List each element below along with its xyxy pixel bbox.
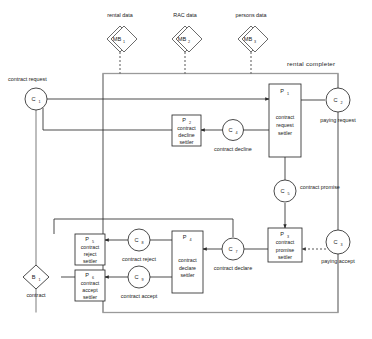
channel-c2[interactable] [326,88,350,112]
channel-c8-id: C [134,237,138,243]
diagram-canvas: rental completer MB 1 rental data MB 2 R… [0,0,372,339]
process-p1-line3: settler [278,130,292,136]
process-p4-line1: contract [178,257,197,263]
channel-c9-label: contract accept [121,293,158,299]
process-p1[interactable] [269,84,301,157]
bank-mb1-id: MB [113,36,122,42]
channel-c3-sub: 3 [340,243,342,247]
channel-c5[interactable] [274,180,296,202]
channel-c5-sub: 5 [287,192,289,196]
bank-mb3-id: MB [244,36,253,42]
channel-c3[interactable] [326,230,350,254]
process-p2-line2: decline [178,132,195,138]
process-p4-id: P [183,234,187,240]
channel-c7-sub: 7 [235,250,237,254]
channel-c7[interactable] [222,238,244,260]
process-p1-sub: 1 [287,92,289,96]
process-p5-id: P [85,236,89,242]
channel-c3-id: C [333,239,337,245]
bank-b1-id: B [32,274,36,280]
channel-c7-id: C [228,246,232,252]
channel-c2-sub: 2 [340,101,342,105]
channel-c4-sub: 4 [235,131,237,135]
channel-c4[interactable] [223,120,244,141]
process-p2-line1: contract [177,125,196,131]
process-p1-id: P [280,88,284,94]
process-p1-line1: contract [276,114,295,120]
channel-c5-id: C [280,188,284,194]
bank-mb2-sub: 2 [188,40,190,44]
process-p6-sub: 6 [92,276,94,280]
process-p2-id: P [182,117,186,123]
bank-mb2-id: MB [178,36,187,42]
process-p3-line1: contract [276,239,295,245]
bank-mb1-sub: 1 [123,40,125,44]
channel-c2-label: paying request [320,117,356,123]
channel-c8-sub: 8 [141,241,143,245]
bank-mb3-sub: 3 [254,40,256,44]
channel-c2-id: C [333,97,337,103]
channel-c9-sub: 9 [141,278,143,282]
process-p4-line3: settler [180,272,194,278]
channel-c4-id: C [228,127,232,133]
channel-c3-label: paying accept [321,258,355,264]
process-p5-sub: 5 [92,240,94,244]
bank-b1-sub: 1 [38,278,40,282]
channel-c7-label: contract declare [214,265,252,271]
channel-c9[interactable] [128,266,150,288]
channel-c4-label: contract decline [214,146,252,152]
process-p6-line2: accept [82,287,98,293]
bank-mb1-label: rental data [107,12,132,18]
process-p2-sub: 2 [189,121,191,125]
link-p2-to-c1 [43,108,172,130]
channel-c1-id: C [31,96,35,102]
process-p6-id: P [85,272,89,278]
channel-c1-label: contract request [8,76,47,82]
bank-mb3-label: persons data [235,12,266,18]
process-p6-line1: contract [81,280,100,286]
bank-b1-label: contract [26,292,46,298]
process-p4-line2: declare [179,265,196,271]
channel-c1[interactable] [25,88,47,110]
process-p5-line1: contract [81,244,100,250]
process-p3-sub: 3 [287,235,289,239]
process-p3-id: P [280,231,284,237]
scope-label: rental completer [287,60,335,67]
process-p3-line2: promise [276,247,295,253]
process-p2-line3: settler [179,139,193,145]
channel-c5-label-line1: contract promise [300,184,340,190]
process-p1-line2: request [276,122,294,128]
process-p5-line3: settler [83,258,97,264]
diagram-svg: rental completer MB 1 rental data MB 2 R… [0,0,372,339]
process-p5-line2: reject [84,251,97,257]
process-p3-line3: settler [278,254,292,260]
channel-c9-id: C [134,274,138,280]
channel-c8-label: contract reject [122,256,156,262]
bank-b1[interactable] [23,265,49,289]
process-p6-line3: settler [83,294,97,300]
bank-mb2-label: RAC data [173,12,196,18]
channel-c1-sub: 1 [38,100,40,104]
channel-c8[interactable] [128,229,150,251]
process-p4-sub: 4 [189,238,191,242]
